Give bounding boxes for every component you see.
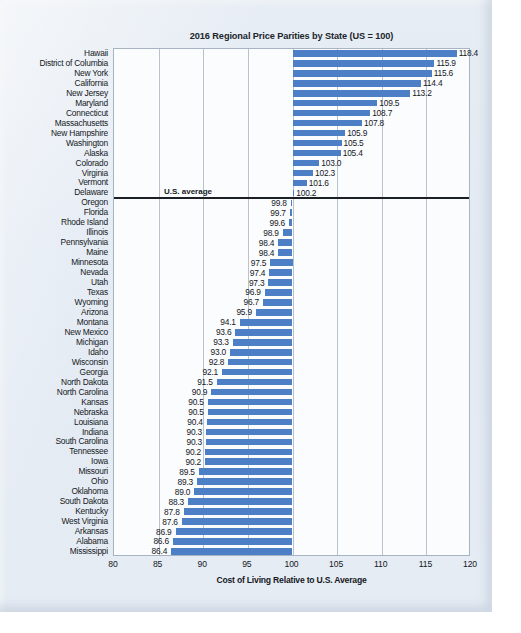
bar-row: 92.8 (114, 358, 469, 368)
bar-row: 95.9 (114, 308, 469, 318)
bar-value-label: 92.1 (202, 367, 218, 377)
bar-value-label: 101.6 (309, 178, 329, 188)
bar (291, 200, 293, 207)
category-label: Maryland (75, 98, 108, 108)
x-tick-label-120: 120 (463, 559, 477, 569)
category-label: Pennsylvania (61, 237, 108, 247)
bar-row: 109.5 (114, 99, 469, 109)
bar-row: 97.3 (114, 278, 469, 288)
category-label: Massachusetts (55, 118, 108, 128)
bar (256, 309, 293, 316)
bar-row: 99.7 (114, 208, 469, 218)
bar-row: 94.1 (114, 318, 469, 328)
bar-value-label: 89.5 (179, 467, 195, 477)
bar-row: 103.0 (114, 159, 469, 169)
bar-value-label: 90.4 (187, 417, 203, 427)
bar (206, 439, 293, 446)
bar (208, 399, 293, 406)
category-label: Tennessee (69, 446, 108, 456)
bar-row: 105.4 (114, 149, 469, 159)
plot-area: 118.4115.9115.6114.4113.2109.5108.7107.8… (113, 48, 470, 556)
bar (283, 229, 293, 236)
bar-value-label: 90.5 (188, 407, 204, 417)
bar-value-label: 90.5 (188, 397, 204, 407)
bar-row: 90.4 (114, 418, 469, 428)
bar (293, 140, 342, 147)
bar-row: 89.0 (114, 487, 469, 497)
x-tick-label-95: 95 (242, 559, 251, 569)
bar-row: 102.3 (114, 169, 469, 179)
category-label: North Carolina (57, 387, 108, 397)
category-label: Mississippi (70, 546, 108, 556)
category-label: Virginia (82, 168, 108, 178)
bar-row: 93.6 (114, 328, 469, 338)
bar (206, 429, 293, 436)
category-label: Minnesota (71, 257, 108, 267)
bar (230, 349, 292, 356)
category-label: Hawaii (84, 48, 108, 58)
bar (207, 419, 293, 426)
category-label: Arkansas (75, 526, 108, 536)
bar-value-label: 109.5 (379, 98, 399, 108)
category-label: Nevada (80, 267, 108, 277)
bar-value-label: 90.3 (186, 427, 202, 437)
bar-value-label: 98.4 (259, 248, 275, 258)
bar-row: 99.8 (114, 198, 469, 208)
bar-row: 96.7 (114, 298, 469, 308)
category-label: California (75, 78, 108, 88)
bar (269, 269, 292, 276)
bar-value-label: 114.4 (423, 78, 442, 88)
bar (173, 538, 293, 545)
us-average-annotation: U.S. average (164, 187, 212, 196)
x-tick-label-100: 100 (284, 559, 298, 569)
bar-row: 98.4 (114, 248, 469, 258)
bar-row: 89.5 (114, 467, 469, 477)
bar-row: 99.6 (114, 218, 469, 228)
category-label: South Carolina (55, 436, 108, 446)
bar (211, 389, 292, 396)
bar-row: 91.5 (114, 378, 469, 388)
category-label: Indiana (82, 427, 108, 437)
bar (293, 190, 295, 197)
bar-value-label: 88.3 (169, 497, 185, 507)
bar-value-label: 118.4 (459, 48, 478, 58)
bar-value-label: 93.0 (211, 347, 227, 357)
bar (293, 110, 371, 117)
bar (197, 478, 292, 485)
bar-value-label: 96.9 (245, 287, 261, 297)
bar-value-label: 97.5 (251, 258, 267, 268)
bar-value-label: 105.4 (343, 148, 363, 158)
bar (293, 100, 378, 107)
bar (171, 548, 292, 555)
bar-row: 92.1 (114, 368, 469, 378)
bar-value-label: 90.2 (186, 457, 202, 467)
category-label: West Virginia (62, 516, 108, 526)
bar-row: 86.4 (114, 547, 469, 557)
bar-row: 90.5 (114, 408, 469, 418)
bar (293, 50, 457, 57)
bar-value-label: 89.3 (178, 477, 194, 487)
category-label: Kansas (81, 397, 108, 407)
bar-value-label: 99.6 (269, 218, 285, 228)
bar-value-label: 93.3 (213, 337, 229, 347)
bar-value-label: 90.2 (186, 447, 202, 457)
category-label: Alabama (76, 536, 108, 546)
category-label: Nebraska (74, 407, 108, 417)
bar-value-label: 97.4 (250, 268, 266, 278)
x-tick-label-80: 80 (108, 559, 117, 569)
bar (205, 449, 292, 456)
bar (278, 249, 292, 256)
category-label: Oregon (81, 197, 108, 207)
bar (182, 518, 293, 525)
category-label: Washington (66, 138, 108, 148)
bar-value-label: 86.4 (152, 546, 168, 556)
category-label: North Dakota (61, 377, 108, 387)
category-label: Wyoming (75, 297, 108, 307)
bar (240, 319, 293, 326)
bar-value-label: 108.7 (372, 108, 392, 118)
bar-row: 93.3 (114, 338, 469, 348)
bar (263, 299, 292, 306)
category-label: Montana (77, 317, 108, 327)
category-label: Rhode Island (61, 217, 108, 227)
bar-row: 90.3 (114, 437, 469, 447)
